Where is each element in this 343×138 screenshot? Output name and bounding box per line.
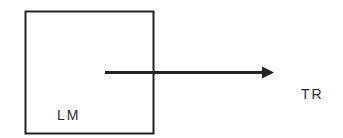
tr-label: TR bbox=[301, 86, 324, 102]
arrowhead-icon bbox=[262, 67, 274, 79]
lm-label: LM bbox=[57, 107, 80, 123]
diagram-canvas: LM TR bbox=[0, 0, 343, 138]
